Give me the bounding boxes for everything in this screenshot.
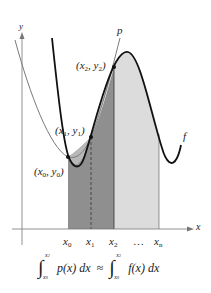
point-label-x1-y1: (x1, y1)	[55, 125, 85, 138]
p-curve-label: p	[117, 25, 123, 36]
simpson-rule-diagram: y x p f (x0, y0) (x1, y1) (x2, y2) x0 x1…	[0, 0, 211, 293]
region-x2-xn	[114, 52, 159, 229]
plot-area	[0, 0, 211, 293]
right-integrand: f(x) dx	[128, 261, 159, 275]
upper-limit-right: x2	[116, 252, 121, 258]
tick-xn: xn	[154, 236, 162, 249]
y-axis-label: y	[19, 22, 23, 31]
tick-x2: x2	[109, 236, 117, 249]
f-curve-label: f	[183, 131, 186, 142]
point-x0-y0	[66, 155, 70, 159]
upper-limit-left: x2	[45, 252, 50, 258]
tick-x0: x0	[63, 236, 71, 249]
x-axis-arrow-icon	[187, 227, 194, 232]
x-axis-label: x	[196, 222, 200, 232]
point-label-x0-y0: (x0, y0)	[34, 166, 64, 179]
approx-symbol: ≈	[97, 261, 104, 275]
point-x1-y1	[89, 135, 93, 139]
lower-limit-left: x0	[43, 274, 48, 280]
integral-left: ∫ x2 x0	[38, 254, 54, 277]
lower-limit-right: x0	[114, 274, 119, 280]
point-label-x2-y2: (x2, y2)	[76, 60, 106, 73]
left-integrand: p(x) dx	[57, 261, 91, 275]
y-axis-arrow-icon	[20, 32, 25, 39]
point-x2-y2	[112, 65, 116, 69]
tick-ellipsis: …	[133, 236, 144, 247]
integral-right: ∫ x2 x0	[109, 254, 125, 277]
simpson-formula: ∫ x2 x0 p(x) dx ≈ ∫ x2 x0 f(x) dx	[38, 254, 159, 277]
tick-x1: x1	[86, 236, 94, 249]
